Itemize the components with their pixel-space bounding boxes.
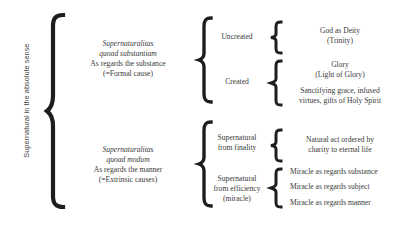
efficiency-node: Supernatural from efficiency (miracle) [208, 174, 266, 204]
efficiency-label-1: Supernatural [208, 174, 266, 184]
leaf-glory: Glory (Light of Glory) [290, 60, 390, 80]
substance-brace-icon [196, 17, 214, 103]
leaf-line: Miracle as regards subject [290, 182, 370, 192]
efficiency-brace-icon [268, 168, 284, 208]
leaf-line: (Trinity) [290, 36, 390, 46]
leaf-line: Natural act ordered by [290, 135, 390, 145]
root-label-line-2: absolute sense [22, 44, 31, 94]
created-label: Created [212, 77, 262, 87]
leaf-miracle-subject: Miracle as regards subject [290, 182, 370, 192]
substance-latin-1: Supernaturalitas [78, 39, 178, 49]
leaf-miracle-substance: Miracle as regards substance [290, 167, 378, 177]
root-label: Supernatural in the absolute sense [22, 58, 32, 158]
manner-latin-2: quoad modum [78, 155, 178, 165]
leaf-miracle-manner: Miracle as regards manner [290, 198, 371, 208]
substance-english-1: As regards the substance [78, 59, 178, 69]
leaf-sanctifying-grace: Sanctifying grace, infused virtues, gift… [290, 86, 390, 106]
taxonomy-diagram: Supernatural in the absolute sense Super… [0, 0, 398, 225]
leaf-line: Sanctifying grace, infused [290, 86, 390, 96]
leaf-line: Miracle as regards substance [290, 167, 378, 177]
substance-latin-2: quoad substantiam [78, 49, 178, 59]
created-node: Created [212, 77, 262, 87]
efficiency-label-3: (miracle) [208, 194, 266, 204]
leaf-line: charity to eternal life [290, 145, 390, 155]
uncreated-node: Uncreated [212, 32, 262, 42]
substance-english-2: (=Formal cause) [78, 69, 178, 79]
leaf-line: God as Deity [290, 26, 390, 36]
manner-english-1: As regards the manner [78, 165, 178, 175]
finality-node: Supernatural from finality [208, 133, 266, 153]
manner-latin-1: Supernaturalitas [78, 145, 178, 155]
efficiency-label-2: from efficiency [208, 184, 266, 194]
finality-brace-icon [268, 129, 284, 162]
uncreated-label: Uncreated [212, 32, 262, 42]
created-brace-icon [268, 60, 284, 106]
leaf-line: Glory [290, 60, 390, 70]
root-brace-icon [44, 14, 66, 208]
leaf-line: Miracle as regards manner [290, 198, 371, 208]
manner-english-2: (=Extrinsic causes) [78, 175, 178, 185]
leaf-line: (Light of Glory) [290, 70, 390, 80]
finality-label-1: Supernatural [208, 133, 266, 143]
leaf-natural-act: Natural act ordered by charity to eterna… [290, 135, 390, 155]
manner-node: Supernaturalitas quoad modum As regards … [78, 145, 178, 185]
root-label-line-1: Supernatural in the [22, 95, 31, 157]
uncreated-brace-icon [268, 21, 284, 54]
leaf-line: virtues, gifts of Holy Spirit [290, 96, 390, 106]
finality-label-2: from finality [208, 143, 266, 153]
substance-node: Supernaturalitas quoad substantiam As re… [78, 39, 178, 79]
leaf-god-as-deity: God as Deity (Trinity) [290, 26, 390, 46]
